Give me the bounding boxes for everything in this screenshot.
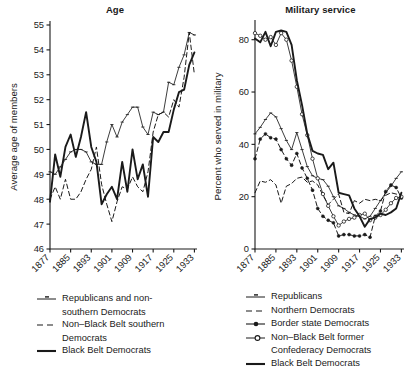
legend-key-line-solid-thick bbox=[245, 357, 267, 370]
legend-key bbox=[245, 357, 267, 370]
legend-military-item: Republicans bbox=[245, 290, 417, 303]
x-tick-label: 1909 bbox=[112, 252, 134, 274]
series-line bbox=[253, 113, 403, 219]
series-line bbox=[253, 31, 403, 227]
legend-key-line-solid-thick bbox=[36, 344, 58, 357]
y-tick-label: 51 bbox=[34, 120, 44, 130]
legend-key bbox=[245, 317, 267, 330]
legend-label: Non–Black Belt southern bbox=[62, 318, 211, 331]
x-tick-label: 1925 bbox=[154, 252, 176, 274]
legend-military-item: Non–Black Belt former bbox=[245, 331, 417, 344]
legend-label: Black Belt Democrats bbox=[271, 357, 417, 370]
series-line bbox=[48, 32, 196, 174]
y-tick-label: 80 bbox=[239, 35, 249, 45]
legend-key bbox=[245, 331, 267, 344]
y-axis-label: Average age of members bbox=[8, 83, 19, 191]
legend-key-line-marker-thin bbox=[36, 292, 58, 305]
legend-label-continuation: Democrats bbox=[36, 332, 211, 345]
legend-key-line-dashed bbox=[245, 304, 267, 317]
x-tick-label: 1885 bbox=[50, 252, 72, 274]
legend-military-item: Black Belt Democrats bbox=[245, 357, 417, 370]
x-tick-label: 1933 bbox=[381, 252, 403, 274]
legend-key bbox=[36, 344, 58, 357]
legend-label-continuation: southern Democrats bbox=[36, 306, 211, 319]
y-tick-label: 47 bbox=[34, 220, 44, 230]
legend-key bbox=[245, 304, 267, 317]
legend-key bbox=[36, 292, 58, 305]
legend-label-continuation: Confederacy Democrats bbox=[245, 344, 417, 357]
x-tick-label: 1877 bbox=[235, 252, 257, 274]
y-tick-label: 60 bbox=[239, 87, 249, 97]
military-chart-plot: 0204060801877188518931901190919171925193… bbox=[208, 0, 417, 290]
legend-military-item: Border state Democrats bbox=[245, 317, 417, 330]
y-tick-label: 20 bbox=[239, 192, 249, 202]
x-tick-label: 1933 bbox=[174, 252, 196, 274]
y-tick-label: 52 bbox=[34, 95, 44, 105]
legend-military: RepublicansNorthern DemocratsBorder stat… bbox=[245, 290, 417, 371]
series-line bbox=[255, 31, 401, 227]
legend-label: Border state Democrats bbox=[271, 317, 417, 330]
y-tick-label: 40 bbox=[239, 140, 249, 150]
y-tick-label: 49 bbox=[34, 170, 44, 180]
series-line bbox=[50, 52, 194, 204]
legend-age-item: Non–Black Belt southern bbox=[36, 318, 211, 331]
series-line bbox=[50, 32, 194, 221]
legend-age-item: Black Belt Democrats bbox=[36, 344, 211, 357]
age-chart-plot: 4647484950515253545518771885189319011909… bbox=[0, 0, 208, 290]
legend-age: Republicans and non-southern DemocratsNo… bbox=[36, 292, 211, 358]
x-tick-label: 1877 bbox=[30, 252, 52, 274]
legend-label: Republicans and non- bbox=[62, 292, 211, 305]
y-tick-label: 55 bbox=[34, 20, 44, 30]
series-line bbox=[255, 177, 401, 214]
y-axis-label: Percent who served in military bbox=[212, 72, 223, 200]
y-tick-label: 48 bbox=[34, 195, 44, 205]
legend-label: Northern Democrats bbox=[271, 304, 417, 317]
legend-key-line-dot-filled bbox=[245, 317, 267, 330]
y-tick-label: 54 bbox=[34, 45, 44, 55]
legend-age-item: Republicans and non- bbox=[36, 292, 211, 305]
legend-key bbox=[36, 318, 58, 331]
panel-military: Military service 02040608018771885189319… bbox=[208, 0, 417, 290]
legend-label: Non–Black Belt former bbox=[271, 331, 417, 344]
x-tick-label: 1917 bbox=[133, 252, 155, 274]
legend-key-line-dashed bbox=[36, 318, 58, 331]
legend-military-item: Northern Democrats bbox=[245, 304, 417, 317]
legend-key-line-circle-open bbox=[245, 331, 267, 344]
legend-label: Black Belt Democrats bbox=[62, 344, 211, 357]
x-tick-label: 1925 bbox=[360, 252, 382, 274]
legend-label: Republicans bbox=[271, 290, 417, 303]
x-tick-label: 1901 bbox=[297, 252, 319, 274]
x-tick-label: 1917 bbox=[339, 252, 361, 274]
y-tick-label: 53 bbox=[34, 70, 44, 80]
legend-key-line-marker-thin bbox=[245, 290, 267, 303]
x-tick-label: 1893 bbox=[71, 252, 93, 274]
x-tick-label: 1885 bbox=[256, 252, 278, 274]
x-tick-label: 1901 bbox=[92, 252, 114, 274]
x-tick-label: 1893 bbox=[277, 252, 299, 274]
x-tick-label: 1909 bbox=[318, 252, 340, 274]
y-tick-label: 50 bbox=[34, 145, 44, 155]
legend-key bbox=[245, 290, 267, 303]
panel-age: Age 464748495051525354551877188518931901… bbox=[0, 0, 208, 290]
